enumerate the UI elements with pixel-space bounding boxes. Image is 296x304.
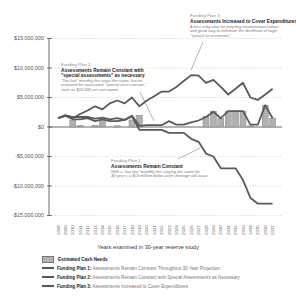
x-tick-label: 2009 <box>63 225 68 235</box>
legend-item: Funding Plan 2: Assessments Remain Const… <box>42 273 292 281</box>
leader-plan3 <box>191 42 203 70</box>
y-tick-label: $10,000,000 <box>14 65 44 71</box>
bar-swatch-icon <box>42 256 54 263</box>
plan1-line <box>58 116 273 204</box>
cash-need-bar <box>218 118 224 127</box>
legend-label: Estimated Cash Needs <box>58 257 108 262</box>
y-tick-label: -$15,000,000 <box>12 212 44 218</box>
y-tick-label: -$5,000,000 <box>15 153 44 159</box>
x-tick-label: 2027 <box>196 225 201 235</box>
legend-label: Funding Plan 3: Assessments Increased to… <box>57 284 188 289</box>
annotation-plan1-heading: Funding Plan 1: <box>111 158 142 163</box>
legend-item: Funding Plan 3: Assessments Increased to… <box>42 282 292 290</box>
x-tick-label: 2008 <box>56 225 61 235</box>
cash-need-bar <box>270 118 276 127</box>
annotation-plan2-heading: Funding Plan 2: <box>61 62 92 67</box>
x-tick-label: 2011 <box>78 225 83 235</box>
x-tick-label: 2016 <box>115 225 120 235</box>
annotation-plan3-body: "special assessments" <box>190 33 231 38</box>
leader-plan1 <box>178 148 200 159</box>
x-tick-label: 2034 <box>248 225 253 235</box>
annotation-plan1-body: 30 years, a $13 million dollar cash shor… <box>111 173 209 178</box>
annotation-plan2-body: such as $10,000 per unit owner <box>61 87 119 92</box>
reserve-study-chart: $15,000,000$10,000,000$5,000,000$0-$5,00… <box>0 0 296 304</box>
x-tick-label: 2019 <box>137 225 142 235</box>
cash-need-bar <box>77 125 83 127</box>
cash-need-bar <box>99 121 105 127</box>
cash-need-bar <box>114 126 120 127</box>
y-tick-label: $0 <box>38 124 44 130</box>
x-tick-label: 2026 <box>189 225 194 235</box>
chart-legend: Estimated Cash NeedsFunding Plan 1: Asse… <box>42 255 292 291</box>
line-swatch-icon <box>42 285 54 287</box>
y-tick-label: -$10,000,000 <box>12 183 44 189</box>
x-tick-label: 2013 <box>93 225 98 235</box>
annotation-plan3-heading: Funding Plan 3: <box>190 13 221 18</box>
x-tick-label: 2017 <box>122 225 127 235</box>
x-tick-label: 2032 <box>233 225 238 235</box>
x-tick-label: 2036 <box>263 225 268 235</box>
x-tick-label: 2037 <box>270 225 275 235</box>
legend-item: Estimated Cash Needs <box>42 255 292 263</box>
legend-label: Funding Plan 1: Assessments Remain Const… <box>57 266 220 271</box>
cash-need-bar <box>70 120 76 127</box>
x-tick-label: 2023 <box>167 225 172 235</box>
line-swatch-icon <box>42 267 54 269</box>
x-tick-label: 2020 <box>144 225 149 235</box>
x-tick-label: 2010 <box>70 225 75 235</box>
cash-need-bar <box>92 125 98 127</box>
x-tick-label: 2033 <box>241 225 246 235</box>
x-tick-label: 2030 <box>218 225 223 235</box>
x-tick-label: 2014 <box>100 225 105 235</box>
cash-need-bar <box>247 126 253 127</box>
x-tick-label: 2012 <box>85 225 90 235</box>
chart-plot: $15,000,000$10,000,000$5,000,000$0-$5,00… <box>0 0 296 244</box>
x-tick-label: 2021 <box>152 225 157 235</box>
legend-label: Funding Plan 2: Assessments Remain Const… <box>57 275 240 280</box>
x-tick-label: 2025 <box>181 225 186 235</box>
x-tick-label: 2018 <box>130 225 135 235</box>
y-tick-label: $15,000,000 <box>14 35 44 41</box>
x-tick-label: 2015 <box>107 225 112 235</box>
x-axis-label: Years examined in 30-year reserve study <box>0 244 296 250</box>
legend-item: Funding Plan 1: Assessments Remain Const… <box>42 264 292 272</box>
x-tick-label: 2028 <box>204 225 209 235</box>
y-tick-label: $5,000,000 <box>17 94 44 100</box>
x-tick-label: 2022 <box>159 225 164 235</box>
x-tick-label: 2029 <box>211 225 216 235</box>
line-swatch-icon <box>42 276 54 278</box>
x-tick-label: 2035 <box>255 225 260 235</box>
x-tick-label: 2031 <box>226 225 231 235</box>
cash-need-bar <box>233 111 239 127</box>
x-tick-label: 2024 <box>174 225 179 235</box>
